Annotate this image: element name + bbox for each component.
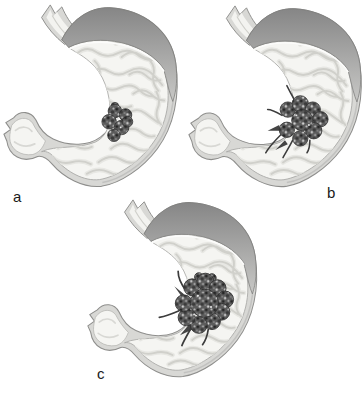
panel-label-a: a — [13, 189, 21, 204]
figure-canvas — [0, 0, 364, 393]
panel-c — [88, 200, 257, 377]
panel-a — [4, 5, 177, 187]
panel-label-c: c — [97, 366, 105, 381]
figure-stage: a b c — [0, 0, 364, 393]
panel-b — [189, 6, 361, 187]
panel-label-b: b — [327, 185, 335, 200]
